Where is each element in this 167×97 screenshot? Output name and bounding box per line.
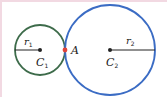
radius-2-label: r2 (126, 35, 135, 47)
tangent-point-label: A (70, 44, 79, 57)
tangent-circles-diagram: r1 C1 A r2 C2 (0, 0, 167, 97)
center-1-point (38, 48, 42, 52)
center-1-label: C1 (36, 56, 48, 69)
center-2-point (108, 48, 112, 52)
tangent-point-a (63, 48, 68, 53)
center-2-label: C2 (106, 56, 118, 69)
radius-1-label: r1 (24, 36, 33, 48)
